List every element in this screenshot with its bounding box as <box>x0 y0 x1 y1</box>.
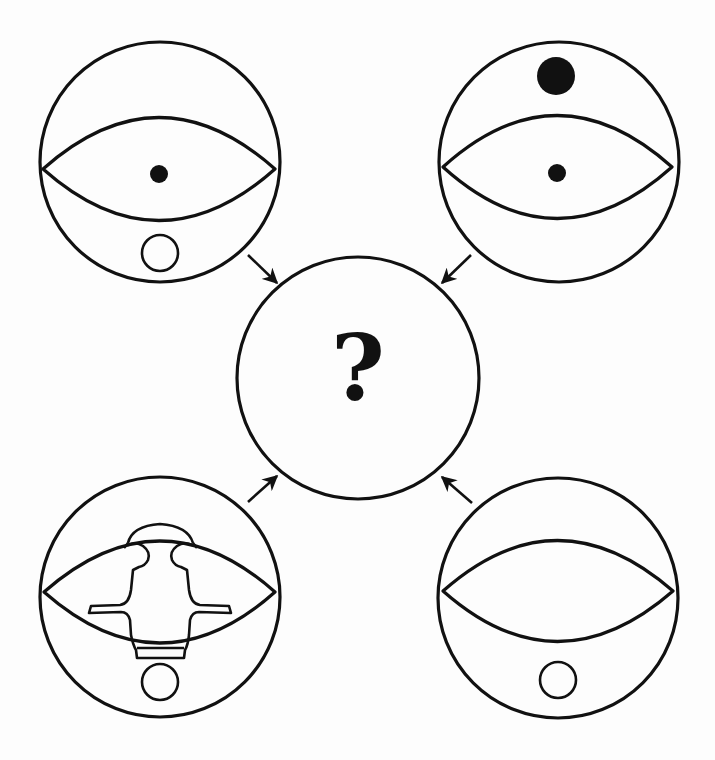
outer-circle <box>438 478 678 718</box>
small-filled-dot <box>150 165 168 183</box>
small-hollow-circle <box>142 664 178 700</box>
small-hollow-circle <box>142 235 178 271</box>
large-filled-dot <box>537 57 575 95</box>
arrow-bottom-left <box>248 476 277 502</box>
outer-circle <box>40 42 280 282</box>
small-filled-dot <box>548 164 566 182</box>
small-hollow-circle <box>540 662 576 698</box>
outer-circle <box>40 477 280 717</box>
eye-shape <box>44 541 275 643</box>
panel-bottom-left <box>40 477 280 717</box>
panel-bottom-right <box>438 478 678 718</box>
arrow-bottom-right <box>442 477 472 503</box>
arrow-top-left <box>248 255 277 283</box>
panel-top-left <box>40 42 280 282</box>
arrow-top-right <box>442 255 471 283</box>
panel-top-right <box>439 42 679 282</box>
question-mark: ? <box>325 322 391 414</box>
figure-outline <box>89 543 231 658</box>
symmetric-figure <box>89 524 231 658</box>
eye-shape <box>443 541 673 642</box>
